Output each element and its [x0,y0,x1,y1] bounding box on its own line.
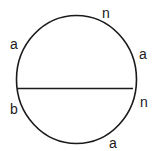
label-top-right: n [102,6,110,20]
diagram-canvas [0,0,158,151]
label-left-upper: a [10,37,18,51]
label-left-lower: b [10,102,18,116]
circle [17,16,137,144]
label-right-lower: n [140,95,148,109]
label-right-upper: a [139,47,147,61]
label-bottom-right: a [109,136,117,150]
